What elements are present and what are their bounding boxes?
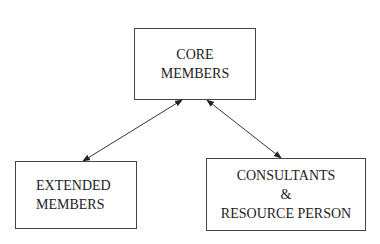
node-label-line: EXTENDED: [36, 176, 111, 195]
node-label-line: MEMBERS: [161, 64, 229, 83]
node-core-members: CORE MEMBERS: [134, 28, 256, 100]
arrow-core-extended: [83, 100, 182, 161]
node-label-line: RESOURCE PERSON: [221, 204, 351, 223]
node-consultants-resource-person: CONSULTANTS & RESOURCE PERSON: [206, 158, 366, 231]
node-label-line: MEMBERS: [36, 195, 104, 214]
node-label-line: CONSULTANTS: [237, 166, 336, 185]
node-extended-members: EXTENDED MEMBERS: [15, 161, 137, 229]
arrow-core-consultants: [207, 100, 281, 158]
node-label-line: &: [281, 185, 292, 204]
node-label-line: CORE: [176, 45, 213, 64]
